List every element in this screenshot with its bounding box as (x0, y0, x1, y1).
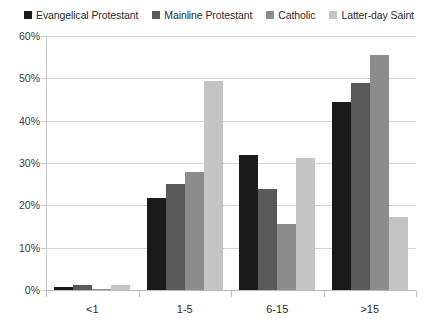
y-tick-mark (41, 248, 46, 249)
chart-legend: Evangelical ProtestantMainline Protestan… (0, 6, 426, 24)
x-tick-mark (231, 291, 232, 297)
y-tick-mark (41, 121, 46, 122)
legend-swatch-icon (24, 11, 32, 19)
bar-chart: Evangelical ProtestantMainline Protestan… (0, 0, 426, 331)
bar-group (231, 36, 324, 290)
y-axis-tick-label: 60% (0, 31, 40, 42)
bar[interactable] (54, 287, 73, 290)
legend-item[interactable]: Mainline Protestant (152, 10, 252, 21)
y-axis-tick-label: 40% (0, 116, 40, 127)
bar[interactable] (147, 198, 166, 290)
legend-item-label: Catholic (278, 10, 315, 21)
bars-layer (46, 36, 416, 290)
y-axis-tick-label: 50% (0, 73, 40, 84)
bar[interactable] (370, 55, 389, 290)
bar[interactable] (166, 184, 185, 290)
bar[interactable] (185, 172, 204, 290)
bar[interactable] (73, 285, 92, 290)
x-tick-mark (46, 291, 47, 297)
legend-item-label: Evangelical Protestant (36, 10, 138, 21)
legend-swatch-icon (152, 11, 160, 19)
bar[interactable] (239, 155, 258, 290)
bar[interactable] (389, 217, 408, 290)
x-tick-mark (416, 291, 417, 297)
y-tick-mark (41, 36, 46, 37)
x-tick-mark (139, 291, 140, 297)
legend-swatch-icon (266, 11, 274, 19)
bar[interactable] (332, 102, 351, 290)
legend-item[interactable]: Latter-day Saint (329, 10, 414, 21)
bar[interactable] (277, 224, 296, 290)
x-axis-labels: <11-56-15>15 (46, 298, 416, 322)
legend-item-label: Mainline Protestant (164, 10, 252, 21)
bar-group (324, 36, 417, 290)
y-tick-mark (41, 163, 46, 164)
y-tick-mark (41, 205, 46, 206)
bar-group (139, 36, 232, 290)
bar[interactable] (351, 83, 370, 290)
x-axis-tick-label: 6-15 (231, 298, 324, 322)
bar[interactable] (296, 158, 315, 290)
legend-item-label: Latter-day Saint (341, 10, 414, 21)
bar[interactable] (204, 81, 223, 290)
bar-group (46, 36, 139, 290)
y-axis-labels: 0%10%20%30%40%50%60% (0, 36, 40, 291)
legend-swatch-icon (329, 11, 337, 19)
x-axis-tick-label: <1 (46, 298, 139, 322)
y-axis-tick-label: 0% (0, 285, 40, 296)
legend-item[interactable]: Catholic (266, 10, 315, 21)
y-axis-tick-label: 10% (0, 243, 40, 254)
y-axis-tick-label: 30% (0, 158, 40, 169)
x-tick-mark (324, 291, 325, 297)
legend-item[interactable]: Evangelical Protestant (24, 10, 138, 21)
y-axis-tick-label: 20% (0, 200, 40, 211)
y-tick-mark (41, 78, 46, 79)
bar[interactable] (258, 189, 277, 290)
bar[interactable] (111, 285, 130, 291)
x-axis-tick-label: 1-5 (139, 298, 232, 322)
x-axis-tick-label: >15 (324, 298, 417, 322)
bar[interactable] (92, 289, 111, 290)
